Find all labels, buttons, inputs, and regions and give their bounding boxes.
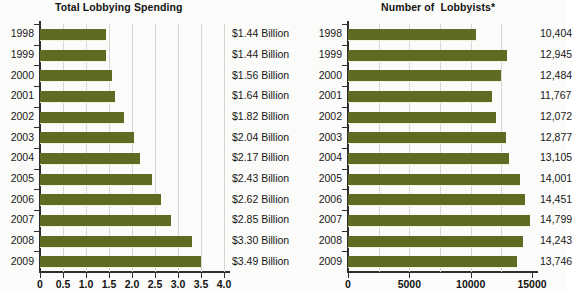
y-tick-mark: [34, 86, 40, 87]
chart-panel-spending: Total Lobbying Spending 1998199920002001…: [0, 0, 300, 291]
x-tick-label: 3.0: [171, 278, 186, 290]
bar-value-label: $1.56 Billion: [232, 69, 289, 81]
bar: [40, 112, 124, 123]
bar: [40, 215, 171, 226]
y-tick-mark: [342, 189, 348, 190]
y-tick-label: 1998: [310, 27, 342, 39]
x-tick-label: 3.5: [194, 278, 209, 290]
y-tick-label: 2004: [2, 151, 34, 163]
x-tick-label: 0: [37, 278, 43, 290]
x-tick-label: 0: [345, 278, 351, 290]
y-tick-mark: [34, 189, 40, 190]
x-tick-label: 4.0: [217, 278, 232, 290]
y-tick-label: 2005: [310, 172, 342, 184]
bar-value-label: 11,767: [540, 89, 571, 101]
x-tick-label: 2.5: [148, 278, 163, 290]
y-tick-mark: [34, 210, 40, 211]
y-tick-mark: [34, 24, 40, 25]
bar-value-label: 14,243: [540, 234, 572, 246]
y-tick-label: 2009: [310, 255, 342, 267]
y-tick-label: 2003: [2, 131, 34, 143]
bar-value-label: $2.43 Billion: [232, 172, 289, 184]
bar-value-label: 14,451: [540, 193, 572, 205]
bar: [40, 236, 192, 247]
bar-value-label: 14,799: [540, 213, 572, 225]
bar-value-label: 13,105: [540, 151, 572, 163]
bar-value-label: $2.04 Billion: [232, 131, 289, 143]
y-tick-label: 2003: [310, 131, 342, 143]
y-tick-mark: [342, 86, 348, 87]
y-tick-label: 1998: [2, 27, 34, 39]
gridline: [201, 24, 202, 272]
gridline: [224, 24, 225, 272]
y-tick-mark: [34, 148, 40, 149]
bar-value-label: $3.30 Billion: [232, 234, 289, 246]
y-tick-label: 2009: [2, 255, 34, 267]
y-tick-mark: [342, 251, 348, 252]
bar: [40, 70, 112, 81]
y-tick-mark: [34, 65, 40, 66]
bar-value-label: 12,945: [540, 48, 572, 60]
bar-value-label: $1.44 Billion: [232, 27, 289, 39]
y-tick-label: 2005: [2, 172, 34, 184]
y-tick-label: 2007: [310, 213, 342, 225]
bar-value-label: $1.64 Billion: [232, 89, 289, 101]
bar: [40, 174, 152, 185]
y-tick-mark: [34, 231, 40, 232]
bar: [40, 153, 140, 164]
y-tick-label: 2007: [2, 213, 34, 225]
x-tick-label: 2.0: [125, 278, 140, 290]
y-tick-mark: [342, 148, 348, 149]
x-tick-label: 1.0: [79, 278, 94, 290]
y-tick-mark: [34, 45, 40, 46]
x-tick-label: 1.5: [102, 278, 117, 290]
bar: [348, 112, 496, 123]
chart-title-lobbyists: Number of Lobbyists*: [381, 1, 495, 13]
y-tick-mark: [342, 24, 348, 25]
bar: [348, 194, 525, 205]
y-tick-mark: [342, 107, 348, 108]
y-tick-label: 2008: [2, 234, 34, 246]
bar-value-label: 10,404: [540, 27, 572, 39]
plot-area-spending: [40, 24, 224, 272]
y-tick-mark: [342, 231, 348, 232]
y-tick-mark: [34, 107, 40, 108]
y-tick-mark: [342, 169, 348, 170]
bar: [348, 50, 507, 61]
y-tick-label: 2001: [310, 89, 342, 101]
bar: [40, 29, 106, 40]
y-tick-mark: [34, 127, 40, 128]
bar: [348, 236, 523, 247]
bar-value-label: 14,001: [540, 172, 572, 184]
y-tick-mark: [34, 251, 40, 252]
y-tick-mark: [342, 210, 348, 211]
bar-value-label: $2.85 Billion: [232, 213, 289, 225]
x-axis-line-lobbyists: [347, 271, 538, 273]
x-tick-label: 10000: [456, 278, 485, 290]
bar: [40, 194, 161, 205]
x-tick-label: 15000: [517, 278, 546, 290]
y-tick-mark: [342, 127, 348, 128]
y-tick-label: 2000: [310, 69, 342, 81]
bar-value-label: 13,746: [540, 255, 572, 267]
y-tick-mark: [34, 169, 40, 170]
bar: [348, 153, 509, 164]
bar-value-label: 12,877: [540, 131, 572, 143]
bar: [348, 132, 506, 143]
bar: [40, 91, 115, 102]
bar: [348, 29, 476, 40]
bar: [348, 174, 520, 185]
bar: [40, 132, 134, 143]
y-tick-label: 2004: [310, 151, 342, 163]
y-tick-label: 2008: [310, 234, 342, 246]
y-tick-mark: [342, 65, 348, 66]
y-tick-label: 2002: [310, 110, 342, 122]
y-tick-label: 2001: [2, 89, 34, 101]
bar-value-label: $3.49 Billion: [232, 255, 289, 267]
bar: [348, 215, 530, 226]
y-tick-label: 2000: [2, 69, 34, 81]
chart-title-spending: Total Lobbying Spending: [55, 1, 183, 13]
x-tick-label: 5000: [398, 278, 421, 290]
y-tick-label: 2006: [310, 193, 342, 205]
bar-value-label: $2.17 Billion: [232, 151, 289, 163]
